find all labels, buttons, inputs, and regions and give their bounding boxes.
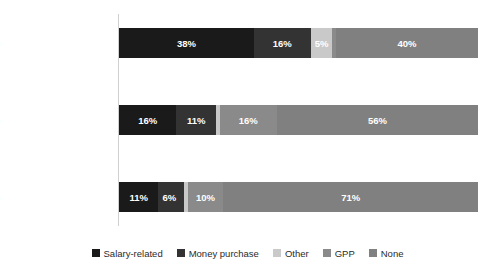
legend-item[interactable]: Salary-related xyxy=(92,248,163,259)
segment-value-label: 6% xyxy=(162,192,176,203)
legend-swatch-icon xyxy=(323,249,331,257)
bar-segment: 5% xyxy=(311,28,333,58)
bar-segment: 16% xyxy=(220,105,277,135)
legend-item[interactable]: None xyxy=(369,248,404,259)
bar-segment: 56% xyxy=(277,105,478,135)
segment-value-label: 56% xyxy=(368,115,387,126)
legend-swatch-icon xyxy=(273,249,281,257)
legend-label: Other xyxy=(285,248,309,259)
stacked-bar-1: 16%11%16%56% xyxy=(119,105,478,135)
legend-item[interactable]: Other xyxy=(273,248,309,259)
segment-value-label: 38% xyxy=(177,38,196,49)
stacked-bar-chart: 250+ employees 38%16%5%40% 50-249 employ… xyxy=(0,0,495,276)
legend-swatch-icon xyxy=(92,249,100,257)
bar-segment: 11% xyxy=(176,105,215,135)
legend-label: Money purchase xyxy=(189,248,259,259)
segment-value-label: 5% xyxy=(315,38,329,49)
legend-label: GPP xyxy=(335,248,355,259)
chart-legend: Salary-relatedMoney purchaseOtherGPPNone xyxy=(0,243,495,263)
legend-label: None xyxy=(381,248,404,259)
plot-area: 250+ employees 38%16%5%40% 50-249 employ… xyxy=(0,0,495,232)
segment-value-label: 40% xyxy=(397,38,416,49)
bar-segment: 16% xyxy=(119,105,176,135)
bar-segment: 10% xyxy=(188,182,224,212)
segment-value-label: 10% xyxy=(196,192,215,203)
bar-segment: 6% xyxy=(158,182,184,212)
stacked-bar-0: 38%16%5%40% xyxy=(119,28,478,58)
segment-value-label: 16% xyxy=(239,115,258,126)
legend-swatch-icon xyxy=(369,249,377,257)
bar-segment: 38% xyxy=(119,28,254,58)
bar-segment: 16% xyxy=(254,28,311,58)
segment-value-label: 11% xyxy=(129,192,148,203)
segment-value-label: 16% xyxy=(273,38,292,49)
segment-value-label: 16% xyxy=(138,115,157,126)
bar-segment: 11% xyxy=(119,182,158,212)
legend-item[interactable]: GPP xyxy=(323,248,355,259)
legend-label: Salary-related xyxy=(104,248,163,259)
bar-segment: 71% xyxy=(223,182,478,212)
stacked-bar-2: 11%6%10%71% xyxy=(119,182,478,212)
segment-value-label: 71% xyxy=(341,192,360,203)
bar-segment: 40% xyxy=(336,28,478,58)
legend-swatch-icon xyxy=(177,249,185,257)
legend-item[interactable]: Money purchase xyxy=(177,248,259,259)
segment-value-label: 11% xyxy=(187,115,206,126)
